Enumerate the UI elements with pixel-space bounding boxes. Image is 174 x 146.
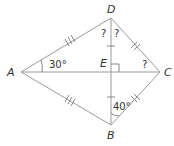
unknown-angle-ecd: ? [142, 59, 147, 70]
angle-arc-b [111, 113, 119, 116]
kite-diagram: D A C B E 30° 40° ? ? ? [0, 0, 174, 146]
segment-cb [111, 72, 160, 125]
vertex-label-b: B [107, 129, 115, 142]
vertex-label-a: A [6, 66, 15, 79]
vertex-label-e: E [100, 57, 107, 70]
vertex-label-d: D [107, 3, 115, 16]
angle-arc-a [41, 60, 42, 72]
segment-ba [21, 72, 111, 125]
unknown-angle-edc: ? [114, 28, 119, 39]
angle-label-b: 40° [113, 101, 131, 112]
angle-label-a: 30° [49, 59, 67, 70]
unknown-angle-ade: ? [101, 28, 106, 39]
triple-tick-mark-ab [65, 95, 75, 106]
right-angle-marker [111, 64, 119, 72]
vertex-label-c: C [164, 66, 172, 79]
